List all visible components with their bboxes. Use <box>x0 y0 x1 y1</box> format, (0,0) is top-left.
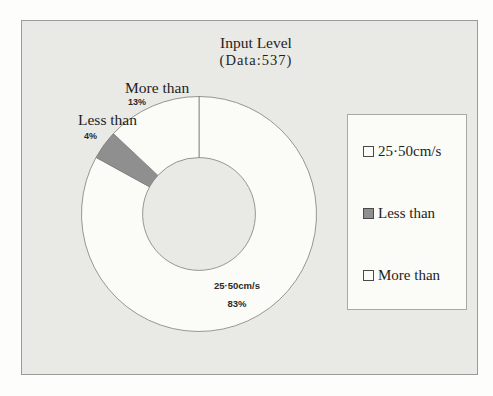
legend-swatch <box>363 208 374 219</box>
chart-frame: Input Level (Data:537) More than 13% Les… <box>21 20 478 375</box>
legend-label: 25·50cm/s <box>378 143 441 160</box>
callout-pct-less-than: 4% <box>84 131 97 141</box>
legend-swatch <box>363 146 374 157</box>
legend-swatch <box>363 270 374 281</box>
slice-label-main-pct: 83% <box>177 295 297 313</box>
chart-legend: 25·50cm/s Less than More than <box>347 114 467 310</box>
legend-item-2: More than <box>363 268 466 283</box>
callout-label-less-than: Less than <box>78 111 137 129</box>
chart-title: Input Level <box>136 34 376 52</box>
chart-title-block: Input Level (Data:537) <box>136 34 376 69</box>
chart-subtitle: (Data:537) <box>136 52 376 69</box>
slice-label-main: 25·50cm/s 83% <box>177 277 297 313</box>
callout-pct-more-than: 13% <box>128 97 146 107</box>
legend-item-0: 25·50cm/s <box>363 144 466 159</box>
callout-label-more-than: More than <box>125 79 189 97</box>
slice-label-main-name: 25·50cm/s <box>177 277 297 295</box>
legend-label: Less than <box>378 205 435 222</box>
legend-item-1: Less than <box>363 206 466 221</box>
legend-label: More than <box>378 267 440 284</box>
